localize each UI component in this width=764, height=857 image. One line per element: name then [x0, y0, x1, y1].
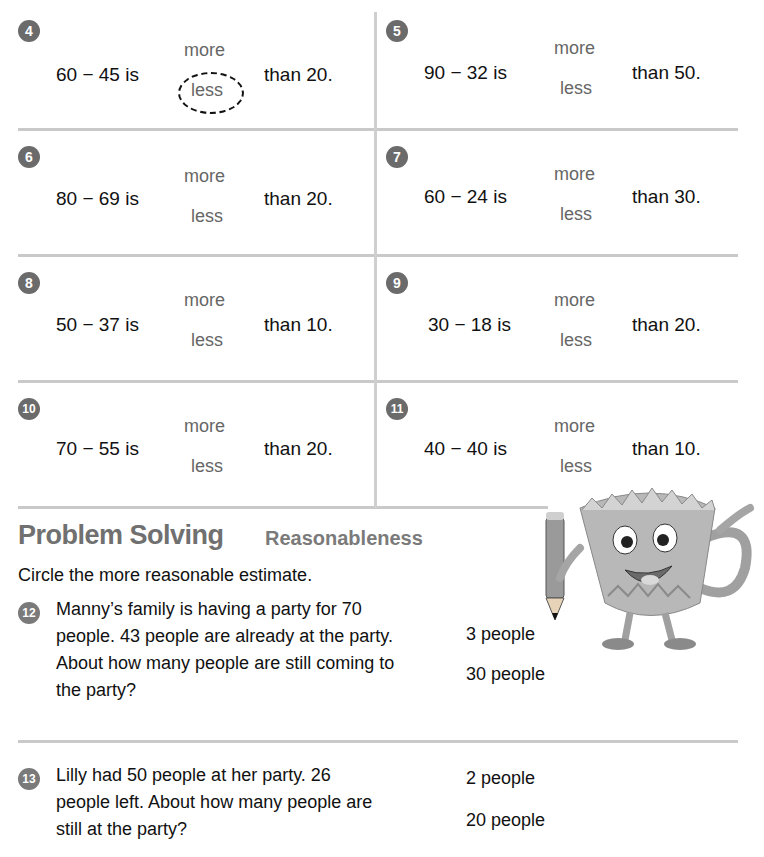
- comparison-target: than 20.: [264, 438, 333, 460]
- expression: 80 − 69 is: [56, 188, 139, 210]
- option-more[interactable]: more: [184, 40, 225, 61]
- comparison-target: than 10.: [264, 314, 333, 336]
- comparison-target: than 50.: [632, 62, 701, 84]
- comparison-target: than 20.: [632, 314, 701, 336]
- exercise-number-badge: 10: [18, 398, 40, 420]
- option-more[interactable]: more: [184, 416, 225, 437]
- exercise-7: 7 60 − 24 is more less than 30.: [386, 146, 742, 270]
- exercise-10: 10 70 − 55 is more less than 20.: [18, 398, 374, 522]
- option-more[interactable]: more: [184, 290, 225, 311]
- option-less[interactable]: less: [191, 456, 223, 477]
- option-less[interactable]: less: [191, 80, 223, 101]
- option-more[interactable]: more: [554, 416, 595, 437]
- comparison-target: than 20.: [264, 188, 333, 210]
- question-number-badge: 13: [18, 768, 40, 790]
- exercise-number-badge: 9: [386, 272, 408, 294]
- answer-option[interactable]: 2 people: [466, 768, 535, 789]
- expression: 60 − 45 is: [56, 64, 139, 86]
- expression: 50 − 37 is: [56, 314, 139, 336]
- exercise-4: 4 60 − 45 is more less than 20.: [18, 20, 374, 144]
- option-more[interactable]: more: [554, 38, 595, 59]
- comparison-target: than 10.: [632, 438, 701, 460]
- answer-option[interactable]: 3 people: [466, 624, 535, 645]
- exercise-6: 6 80 − 69 is more less than 20.: [18, 146, 374, 270]
- exercise-number-badge: 8: [18, 272, 40, 294]
- exercise-number-badge: 5: [386, 20, 408, 42]
- expression: 70 − 55 is: [56, 438, 139, 460]
- question-text: Manny’s family is having a party for 70 …: [56, 596, 406, 704]
- option-less[interactable]: less: [560, 330, 592, 351]
- expression: 60 − 24 is: [424, 186, 507, 208]
- answer-option[interactable]: 30 people: [466, 664, 545, 685]
- option-less[interactable]: less: [560, 78, 592, 99]
- exercise-5: 5 90 − 32 is more less than 50.: [386, 20, 742, 144]
- expression: 40 − 40 is: [424, 438, 507, 460]
- instructions: Circle the more reasonable estimate.: [18, 565, 312, 586]
- exercise-8: 8 50 − 37 is more less than 10.: [18, 272, 374, 396]
- answer-option[interactable]: 20 people: [466, 810, 545, 831]
- comparison-target: than 30.: [632, 186, 701, 208]
- option-less[interactable]: less: [560, 456, 592, 477]
- column-divider: [374, 12, 377, 508]
- exercise-number-badge: 7: [386, 146, 408, 168]
- exercise-number-badge: 6: [18, 146, 40, 168]
- mascot-illustration: [540, 478, 760, 658]
- exercise-number-badge: 11: [386, 398, 408, 420]
- exercise-number-badge: 4: [18, 20, 40, 42]
- question-text: Lilly had 50 people at her party. 26 peo…: [56, 762, 376, 843]
- option-more[interactable]: more: [554, 164, 595, 185]
- section-subtitle: Reasonableness: [265, 527, 423, 550]
- expression: 90 − 32 is: [424, 62, 507, 84]
- expression: 30 − 18 is: [428, 314, 511, 336]
- option-more[interactable]: more: [184, 166, 225, 187]
- option-less[interactable]: less: [191, 330, 223, 351]
- row-divider: [18, 740, 738, 743]
- option-more[interactable]: more: [554, 290, 595, 311]
- comparison-target: than 20.: [264, 64, 333, 86]
- option-less[interactable]: less: [191, 206, 223, 227]
- exercise-9: 9 30 − 18 is more less than 20.: [386, 272, 742, 396]
- option-less[interactable]: less: [560, 204, 592, 225]
- question-number-badge: 12: [18, 602, 40, 624]
- section-title: Problem Solving: [18, 520, 224, 551]
